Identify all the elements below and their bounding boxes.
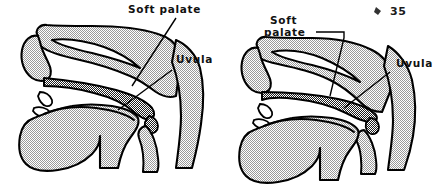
label-soft-palate-line-1: Soft palate bbox=[128, 3, 201, 15]
panel-left-velum-lowered: Soft palate Uvula bbox=[19, 3, 213, 172]
upper-teeth bbox=[258, 104, 272, 118]
label-soft-palate: Soft palate bbox=[128, 3, 201, 15]
label-uvula-line-1: Uvula bbox=[176, 53, 213, 65]
upper-teeth bbox=[38, 92, 52, 106]
panel-right-velum-raised: Soft palate Uvula bbox=[239, 14, 433, 183]
vocal-tract-figure: Soft palate Uvula bbox=[0, 0, 443, 192]
label-soft-palate-line-1: Soft bbox=[270, 14, 297, 26]
figure-number: 35 bbox=[390, 5, 406, 18]
label-uvula-line-1: Uvula bbox=[396, 57, 433, 69]
label-uvula: Uvula bbox=[396, 57, 433, 69]
figure-number-group: 35 bbox=[374, 5, 406, 18]
label-uvula: Uvula bbox=[176, 53, 213, 65]
tick-mark-icon bbox=[374, 7, 381, 15]
label-soft-palate: Soft palate bbox=[264, 14, 306, 38]
figure-container: Soft palate Uvula bbox=[0, 0, 443, 192]
larynx-column bbox=[356, 130, 376, 174]
uvula-shape bbox=[366, 118, 379, 134]
label-soft-palate-line-2: palate bbox=[264, 26, 306, 38]
